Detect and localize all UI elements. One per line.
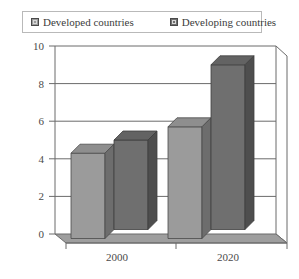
chart-right-wall bbox=[276, 46, 287, 243]
bar-2020-developing bbox=[211, 56, 254, 230]
bar-side bbox=[245, 56, 254, 230]
bar-side bbox=[105, 144, 114, 238]
bar-face bbox=[71, 153, 105, 238]
chart-svg: 10 8 6 4 2 0 2000 2020 bbox=[0, 38, 299, 279]
y-axis-label-6: 6 bbox=[39, 115, 45, 127]
bar-2020-developed bbox=[168, 118, 211, 239]
bar-chart-figure: Developed countries Developing countries bbox=[0, 0, 299, 279]
y-axis-label-8: 8 bbox=[39, 78, 45, 90]
x-axis-label-2020: 2020 bbox=[217, 251, 240, 263]
legend-swatch-developed-icon bbox=[31, 18, 39, 26]
legend-swatch-developing-icon bbox=[170, 18, 178, 26]
bar-face bbox=[168, 127, 202, 239]
bar-2000-developing bbox=[114, 131, 157, 230]
y-axis-label-2: 2 bbox=[39, 190, 45, 202]
bar-2000-developed bbox=[71, 144, 114, 238]
y-axis-label-4: 4 bbox=[39, 153, 45, 165]
y-axis-label-0: 0 bbox=[39, 228, 45, 240]
bar-side bbox=[148, 131, 157, 230]
x-tick-marks bbox=[66, 243, 287, 249]
y-tick-marks bbox=[49, 46, 55, 234]
bar-face bbox=[114, 140, 148, 230]
y-axis-label-10: 10 bbox=[33, 40, 45, 52]
legend-item-developed: Developed countries bbox=[31, 17, 134, 28]
bar-face bbox=[211, 65, 245, 230]
chart-legend: Developed countries Developing countries bbox=[22, 11, 262, 33]
bar-side bbox=[202, 118, 211, 239]
legend-label-developing: Developing countries bbox=[182, 17, 276, 28]
plot-area: 10 8 6 4 2 0 2000 2020 bbox=[0, 38, 299, 279]
legend-item-developing: Developing countries bbox=[170, 17, 276, 28]
x-axis-label-2000: 2000 bbox=[106, 251, 129, 263]
legend-label-developed: Developed countries bbox=[43, 17, 134, 28]
